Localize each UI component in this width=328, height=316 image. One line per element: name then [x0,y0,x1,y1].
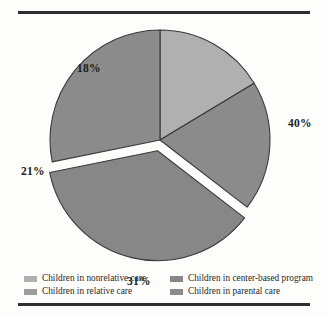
legend-item-label: Children in parental care [188,287,280,296]
legend-item-center-based-program: Children in center-based program [170,272,308,285]
pie-chart-svg [0,18,328,266]
slice-data-label-relative: 21% [21,165,45,177]
pie-chart-plot-area: 40% 31% 21% 18% [0,18,328,266]
legend-item-label: Children in relative care [42,287,132,296]
top-divider-rule [18,11,310,14]
pie-slice [50,30,160,162]
legend-item-label: Children in nonrelative care [42,274,146,283]
legend-swatch-icon [24,276,37,282]
legend-item-nonrelative-care: Children in nonrelative care [24,272,170,285]
slice-data-label-center-based: 40% [288,117,312,129]
chart-legend: Children in nonrelative care Children in… [24,272,308,298]
legend-item-label: Children in center-based program [188,274,313,283]
legend-swatch-icon [24,289,37,295]
legend-item-relative-care: Children in relative care [24,285,170,298]
bottom-divider-rule [18,303,310,306]
slice-data-label-nonrelative: 18% [77,62,101,74]
legend-swatch-icon [170,276,183,282]
legend-swatch-icon [170,289,183,295]
pie-chart-figure: 40% 31% 21% 18% Children in nonrelative … [0,0,328,316]
legend-item-parental-care: Children in parental care [170,285,308,298]
